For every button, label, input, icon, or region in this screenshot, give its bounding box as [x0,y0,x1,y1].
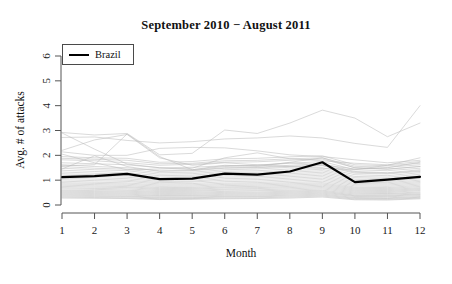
y-tick-label: 2 [40,153,52,159]
y-tick-label: 4 [40,102,52,108]
y-tick-label: 3 [40,127,52,133]
y-tick-label: 0 [40,202,52,208]
x-tick-label: 3 [124,224,130,236]
x-axis-label: Month [226,247,257,259]
y-tick-label: 1 [40,177,52,183]
legend-label-brazil: Brazil [95,49,121,60]
x-tick-label: 7 [255,224,261,236]
x-tick-label: 5 [189,224,195,236]
x-tick-label: 12 [415,224,426,236]
legend-entry-brazil[interactable]: Brazil [63,45,133,64]
x-tick-label: 6 [222,224,228,236]
y-tick-label: 6 [40,53,52,59]
plot-area: 0123456 123456789101112 Avg. # of attack… [0,0,452,284]
x-tick-label: 8 [287,224,293,236]
x-tick-label: 1 [59,224,65,236]
chart-legend[interactable]: Brazil [62,44,134,65]
chart-figure: September 2010 − August 2011 0123456 123… [0,0,452,284]
y-tick-layer: 0123456 [40,53,61,208]
x-tick-label: 11 [382,224,393,236]
x-tick-label: 9 [320,224,326,236]
x-tick-label: 10 [349,224,361,236]
y-axis-label: Avg. # of attacks [14,91,27,169]
x-tick-layer: 123456789101112 [59,213,425,236]
y-tick-label: 5 [40,78,52,84]
legend-line-swatch-brazil [69,54,89,56]
x-tick-label: 2 [92,224,98,236]
x-tick-label: 4 [157,224,163,236]
